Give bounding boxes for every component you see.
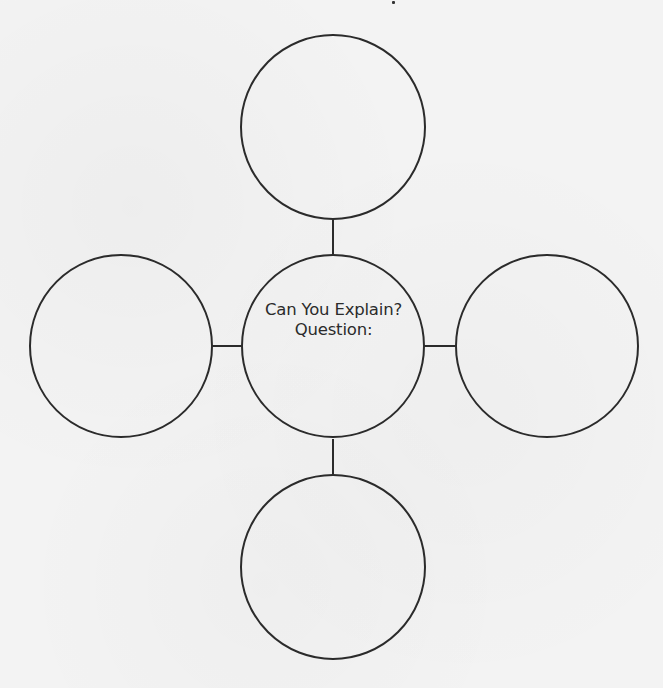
left-answer-circle[interactable] xyxy=(30,255,212,437)
center-question-circle[interactable] xyxy=(242,255,424,437)
right-answer-circle[interactable] xyxy=(456,255,638,437)
worksheet-page: Can You Explain? Question: xyxy=(0,0,663,688)
center-question-prompt: Question: xyxy=(243,320,424,340)
top-answer-circle[interactable] xyxy=(241,35,425,219)
concept-web-diagram xyxy=(0,0,663,688)
center-question-label: Can You Explain? Question: xyxy=(243,300,424,340)
center-title: Can You Explain? xyxy=(243,300,424,320)
bottom-answer-circle[interactable] xyxy=(241,475,425,659)
